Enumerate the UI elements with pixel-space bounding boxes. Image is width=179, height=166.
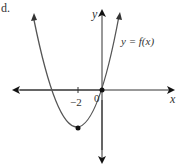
parabola-curve bbox=[34, 16, 119, 127]
origin-label: 0 bbox=[94, 93, 100, 104]
curve-label: y = f(x) bbox=[121, 36, 154, 47]
vertex-point bbox=[76, 126, 81, 131]
function-graph bbox=[0, 0, 179, 166]
x-tick-label: −2 bbox=[70, 97, 82, 108]
x-axis-label: x bbox=[170, 93, 175, 105]
y-axis-label: y bbox=[92, 8, 97, 20]
origin-point bbox=[100, 88, 105, 93]
